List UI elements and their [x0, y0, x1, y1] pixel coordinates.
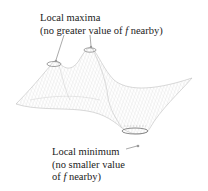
minimum-description-2: of f nearby)	[52, 171, 125, 184]
local-maxima-annotation: Local maxima (no greater value of f near…	[40, 12, 163, 37]
maxima-leader-left	[56, 35, 64, 60]
minimum-title: Local minimum	[52, 146, 125, 159]
local-minimum-annotation: Local minimum (no smaller value of f nea…	[52, 146, 125, 184]
surface	[16, 48, 192, 134]
maxima-description: (no greater value of f nearby)	[40, 25, 163, 38]
minimum-description-1: (no smaller value	[52, 159, 125, 172]
maxima-title: Local maxima	[40, 12, 163, 25]
minimum-leader	[126, 146, 137, 149]
